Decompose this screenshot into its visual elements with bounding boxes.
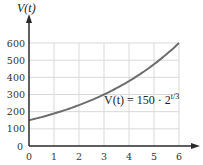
x-tick-labels: 0123456 — [26, 151, 182, 162]
x-tick-label: 6 — [176, 151, 182, 162]
y-tick-label: 200 — [7, 106, 25, 117]
exponential-chart: 0100200300400500600 0123456 V(t) V(t) = … — [0, 0, 203, 165]
y-tick-label: 400 — [7, 72, 25, 83]
x-tick-label: 4 — [126, 151, 132, 162]
y-tick-label: 100 — [7, 123, 25, 134]
y-tick-label: 600 — [7, 38, 25, 49]
y-tick-label: 0 — [17, 141, 23, 152]
x-tick-label: 1 — [51, 151, 57, 162]
y-tick-label: 500 — [7, 55, 25, 66]
x-tick-label: 5 — [151, 151, 157, 162]
y-tick-label: 300 — [7, 89, 25, 100]
equation-exponent: t/3 — [171, 92, 179, 101]
x-tick-label: 3 — [101, 151, 107, 162]
x-tick-label: 2 — [76, 151, 82, 162]
x-tick-label: 0 — [26, 151, 32, 162]
x-axis-arrow-icon — [191, 143, 200, 149]
y-axis-label: V(t) — [17, 1, 36, 15]
equation-label: V(t) = 150 · 2t/3 — [104, 92, 179, 107]
y-tick-labels: 0100200300400500600 — [7, 38, 25, 152]
y-axis-arrow-icon — [26, 14, 32, 23]
equation-main: V(t) = 150 · 2 — [104, 93, 171, 107]
